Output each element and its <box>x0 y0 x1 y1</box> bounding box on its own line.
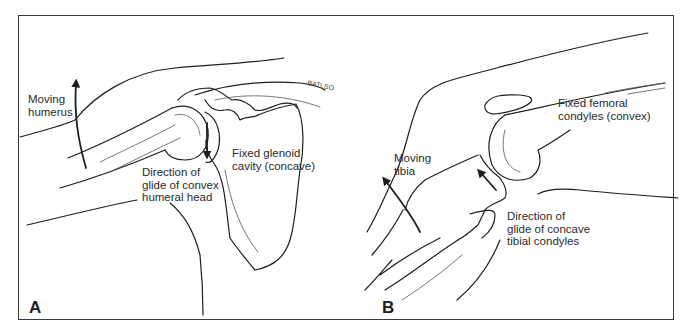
acromion <box>178 88 297 111</box>
calf-contour <box>457 240 500 300</box>
anatomy-illustration: BATLSO <box>0 0 693 328</box>
panel-letter-b: B <box>382 298 394 318</box>
scapula-inner <box>225 170 258 252</box>
clavicle-lower <box>215 96 320 107</box>
moving-tibia-arrow <box>385 180 420 232</box>
label-moving-humerus: Moving humerus <box>28 93 73 118</box>
label-fixed-femoral-condyles: Fixed femoral condyles (convex) <box>558 97 651 122</box>
femoral-condyle <box>489 115 570 180</box>
coracoid <box>205 100 258 120</box>
label-tibial-glide-direction: Direction of glide of concave tibial con… <box>507 210 590 248</box>
clavicle-line <box>195 82 325 95</box>
moving-humerus-arrow <box>75 83 86 168</box>
humerus-upper <box>68 108 172 158</box>
artist-signature: BATLSO <box>307 79 336 92</box>
tibial-glide-arrow <box>480 172 496 190</box>
tibia-shaft <box>380 238 440 275</box>
hamstring-contour <box>538 189 678 198</box>
arm-contour <box>27 200 137 225</box>
label-moving-tibia: Moving tibia <box>394 152 431 177</box>
tibia-plateau <box>458 155 506 240</box>
label-fixed-glenoid-cavity: Fixed glenoid cavity (concave) <box>232 147 315 172</box>
thigh-top-contour <box>367 33 648 232</box>
label-humeral-glide-direction: Direction of glide of convex humeral hea… <box>142 166 219 204</box>
torso-contour <box>170 203 203 315</box>
humeral-head <box>165 106 208 160</box>
scapula <box>206 104 303 270</box>
panel-letter-a: A <box>29 298 41 318</box>
